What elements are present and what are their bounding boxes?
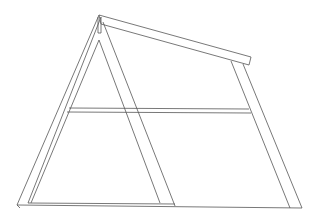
apex-post [98,17,101,33]
top-rail [99,15,251,65]
left-leg [17,15,101,205]
base-rail [17,203,302,208]
inner-triangle [31,22,175,206]
a-frame-drawing [0,0,320,224]
cross-bar [67,108,251,113]
right-post [231,61,302,208]
